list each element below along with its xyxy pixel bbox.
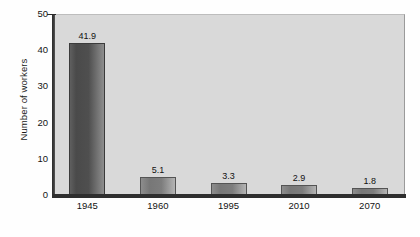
bar-value-label: 2.9 <box>277 174 321 183</box>
bar <box>69 43 105 195</box>
y-axis-tick-label: 50 <box>26 9 48 19</box>
x-axis-tick-labels: 19451960199520102070 <box>0 201 420 217</box>
plot-area: 41.95.13.32.91.8 <box>52 14 405 195</box>
y-axis-tick-label: 30 <box>26 81 48 91</box>
x-axis-tick-label: 1960 <box>132 201 184 211</box>
x-axis-tick-label: 2070 <box>344 201 396 211</box>
bar <box>140 177 176 195</box>
y-axis-tick-label: 40 <box>26 45 48 55</box>
x-axis-tick-label: 1945 <box>61 201 113 211</box>
bar-chart-figure: Number of workers 01020304050 41.95.13.3… <box>0 0 420 237</box>
x-axis-tick-label: 2010 <box>273 201 325 211</box>
y-axis-tick-label: 20 <box>26 118 48 128</box>
x-axis-tick-label: 1995 <box>203 201 255 211</box>
bar-value-label: 3.3 <box>207 172 251 181</box>
y-axis-spine <box>52 14 55 196</box>
bar-value-label: 5.1 <box>136 166 180 175</box>
y-axis-tick-label: 0 <box>26 190 48 200</box>
scan-watermark <box>92 73 342 99</box>
bar-value-label: 1.8 <box>348 177 392 186</box>
y-axis-tick-mark-top <box>47 14 56 15</box>
y-axis-tick-label: 10 <box>26 154 48 164</box>
bar-value-label: 41.9 <box>65 32 109 41</box>
x-axis-spine <box>52 194 406 198</box>
